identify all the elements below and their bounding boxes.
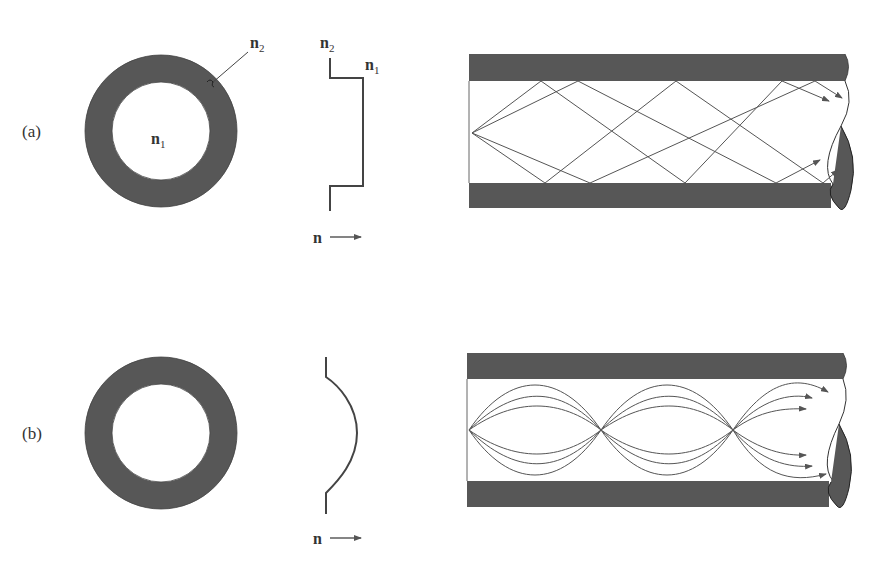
cladding-top (469, 54, 845, 81)
cladding-index-label-a: n2 (250, 34, 264, 54)
cladding-bottom (467, 481, 829, 507)
panel-label-a: (a) (22, 122, 41, 141)
profile-label-n2: n2 (320, 34, 334, 54)
curved-rays (469, 383, 828, 478)
fiber-longitudinal-a (469, 54, 853, 210)
optical-fiber-diagram: (a) n1 n2 n2 n1 n (0, 0, 883, 575)
zigzag-rays (472, 81, 842, 183)
cladding-bottom (469, 183, 831, 208)
core-index-label-a: n1 (151, 130, 165, 150)
cladding-top (467, 353, 843, 379)
leader-line (212, 52, 248, 83)
panel-b: (b) n (22, 353, 851, 547)
fiber-cross-section-b (85, 357, 237, 509)
profile-label-n1: n1 (365, 56, 379, 76)
panel-label-b: (b) (22, 424, 42, 443)
panel-a: (a) n1 n2 n2 n1 n (22, 34, 853, 246)
fiber-longitudinal-b (467, 353, 851, 508)
axis-label-n-a: n (313, 229, 322, 246)
step-index-profile (330, 58, 363, 211)
axis-label-n-b: n (313, 530, 322, 547)
fiber-cross-section-a (85, 55, 237, 207)
graded-index-profile (326, 357, 357, 514)
